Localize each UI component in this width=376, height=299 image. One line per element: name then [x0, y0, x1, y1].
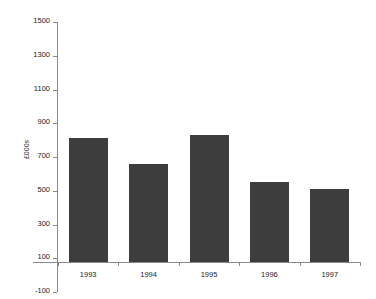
y-tick-label: 900 [37, 117, 50, 126]
x-tick-label: 1995 [189, 270, 229, 279]
y-tick-mark [53, 258, 57, 259]
y-tick-label: 1500 [33, 16, 50, 25]
y-tick-label: -100 [35, 286, 50, 295]
y-axis-tick: 1500 [0, 22, 57, 23]
x-tick-mark [118, 262, 119, 266]
x-tick-mark [300, 262, 301, 266]
y-tick-label: 500 [37, 185, 50, 194]
bar [310, 189, 349, 262]
y-axis-tick: 1300 [0, 56, 57, 57]
y-axis-tick: 700 [0, 157, 57, 158]
bar [69, 138, 108, 262]
y-tick-label: 700 [37, 151, 50, 160]
y-tick-label: 100 [37, 252, 50, 261]
y-tick-mark [53, 292, 57, 293]
x-tick-label: 1997 [310, 270, 350, 279]
x-tick-mark [179, 262, 180, 266]
y-tick-mark [53, 56, 57, 57]
y-axis-title: £000s [18, 0, 34, 299]
x-tick-label: 1994 [129, 270, 169, 279]
y-axis-tick: 1100 [0, 90, 57, 91]
y-tick-mark [53, 157, 57, 158]
y-tick-mark [53, 123, 57, 124]
y-tick-mark [53, 191, 57, 192]
x-tick-mark [239, 262, 240, 266]
bar [250, 182, 289, 262]
bar [129, 164, 168, 262]
y-tick-label: 300 [37, 219, 50, 228]
x-tick-mark [360, 262, 361, 266]
y-axis-tick: -100 [0, 292, 57, 293]
x-tick-mark [58, 262, 59, 266]
y-tick-mark [53, 225, 57, 226]
bar [190, 135, 229, 262]
x-tick-label: 1993 [68, 270, 108, 279]
y-axis-tick: 100 [0, 258, 57, 259]
y-axis-tick: 300 [0, 225, 57, 226]
y-axis-line [57, 22, 58, 292]
y-axis-tick: 500 [0, 191, 57, 192]
x-axis-line [33, 262, 361, 263]
bar-chart: £000s 150013001100900700500300100-100 19… [0, 0, 376, 299]
y-tick-mark [53, 22, 57, 23]
y-axis-tick: 900 [0, 123, 57, 124]
y-tick-mark [53, 90, 57, 91]
y-tick-label: 1100 [34, 84, 50, 93]
x-tick-label: 1996 [249, 270, 289, 279]
y-tick-label: 1300 [33, 50, 50, 59]
